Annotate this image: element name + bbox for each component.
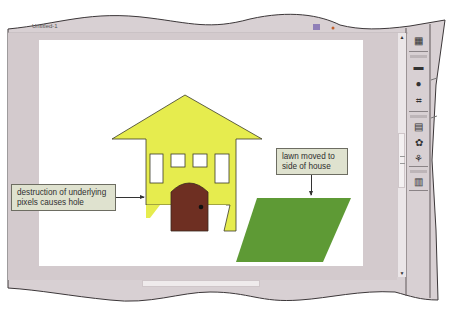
channels-icon[interactable]: ✿: [411, 137, 426, 149]
transform-icon[interactable]: ⌗: [411, 95, 426, 107]
dock-divider: [409, 111, 428, 112]
info-icon[interactable]: ●: [411, 78, 426, 90]
vertical-scrollbar[interactable]: ▲ ▼: [397, 33, 406, 277]
dock-section-label: [410, 55, 427, 58]
callout-arrow-right: [116, 197, 144, 198]
door-knob: [199, 205, 204, 210]
vertical-scroll-thumb[interactable]: [398, 133, 405, 188]
dock-divider: [409, 166, 428, 167]
callout-line: destruction of underlying: [17, 188, 110, 198]
layer-comps-icon[interactable]: ▬: [411, 61, 426, 73]
house-shape: [112, 95, 262, 231]
callout-arrow-down: [311, 175, 312, 195]
dock-divider: [409, 190, 428, 191]
artwork: [0, 0, 451, 312]
house-window: [171, 154, 185, 167]
scroll-down-arrow-icon[interactable]: ▼: [398, 269, 406, 277]
house-window: [193, 154, 207, 167]
layers-icon[interactable]: ▥: [411, 176, 426, 188]
histogram-icon[interactable]: ▦: [411, 35, 426, 47]
callout-line: pixels causes hole: [17, 198, 110, 208]
house-window: [150, 154, 163, 183]
dock-divider: [409, 51, 428, 52]
tool-presets-icon[interactable]: ▤: [411, 121, 426, 133]
callout-pixel-hole: destruction of underlying pixels causes …: [11, 184, 116, 211]
photoshop-window: Untitled-1 destruction of underlying pix…: [0, 0, 451, 312]
paths-icon[interactable]: ⚘: [411, 153, 426, 165]
horizontal-scrollbar[interactable]: [8, 280, 400, 288]
callout-line: lawn moved to: [282, 152, 342, 162]
dock-section-label: [410, 115, 427, 118]
house-window: [215, 154, 229, 183]
dock-section-label: [410, 170, 427, 173]
horizontal-scroll-thumb[interactable]: [142, 280, 260, 287]
callout-lawn-moved: lawn moved to side of house: [276, 148, 348, 175]
panel-dock: ▦ ▬ ● ⌗ ▤ ✿ ⚘ ▥: [407, 20, 430, 295]
lawn-shape: [236, 198, 351, 262]
scroll-up-arrow-icon[interactable]: ▲: [398, 33, 406, 41]
callout-line: side of house: [282, 162, 342, 172]
grip-icon: [400, 156, 405, 164]
